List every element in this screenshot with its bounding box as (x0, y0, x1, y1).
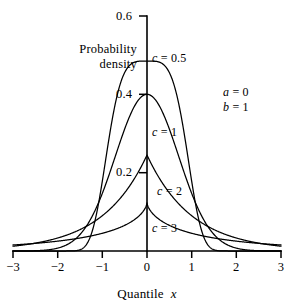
param-b-value: 1 (243, 100, 249, 114)
x-tick-label-3: 3 (278, 261, 284, 274)
y-tick-label-0.6: 0.6 (116, 10, 132, 23)
x-tick-label--3: −3 (6, 261, 20, 274)
x-tick-label--1: −1 (95, 261, 109, 274)
curve-label-c-1: c = 1 (152, 126, 177, 138)
x-axis-title: Quantile x (117, 287, 176, 300)
x-tick-label-2: 2 (233, 261, 239, 274)
probability-density-figure: 0.6 0.4 0.2 −3 −2 −1 0 1 2 3 Probability… (0, 0, 293, 308)
curve-label-c-0.5-value: 0.5 (171, 51, 187, 65)
param-a-value: 0 (243, 85, 249, 99)
y-axis-title-line1: Probability (41, 42, 137, 57)
y-tick-label-0.2: 0.2 (116, 166, 132, 179)
y-axis-title-line2: density (41, 57, 137, 72)
y-axis-title: Probability density (41, 42, 137, 72)
x-tick-label-1: 1 (188, 261, 194, 274)
param-b: b = 1 (223, 101, 249, 113)
curve-label-c-3-value: 3 (171, 221, 177, 235)
curve-label-c-2: c = 2 (157, 185, 182, 197)
param-b-symbol: b (223, 100, 229, 114)
curve-label-c-0.5: c = 0.5 (152, 52, 187, 64)
curve-label-c-3: c = 3 (152, 222, 177, 234)
y-tick-label-0.4: 0.4 (116, 88, 132, 101)
param-a-symbol: a (223, 85, 229, 99)
x-tick-label-0: 0 (144, 261, 150, 274)
x-axis-title-text: Quantile (117, 286, 163, 301)
curve-label-c-2-value: 2 (176, 184, 182, 198)
curve-label-c-1-value: 1 (171, 125, 177, 139)
param-a: a = 0 (223, 86, 249, 98)
x-tick-label--2: −2 (51, 261, 65, 274)
x-axis-title-symbol: x (171, 286, 177, 301)
